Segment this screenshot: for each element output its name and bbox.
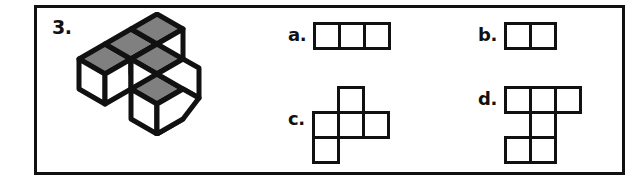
option-c-label: c. (288, 110, 305, 128)
net-cell (504, 86, 532, 114)
net-cell (529, 22, 557, 50)
net-cell (504, 22, 532, 50)
question-card: 3. (0, 0, 642, 187)
option-d-label: d. (478, 90, 497, 108)
option-b-net (504, 22, 557, 50)
net-cell (313, 22, 341, 50)
option-b-label: b. (478, 26, 497, 44)
net-cell (337, 111, 365, 139)
net-cell (312, 136, 340, 164)
net-cell (312, 111, 340, 139)
option-a-net (313, 22, 391, 50)
net-cell (529, 136, 557, 164)
option-b[interactable]: b. (478, 22, 557, 50)
option-d[interactable]: d. (478, 86, 582, 164)
net-cell (363, 22, 391, 50)
option-c[interactable]: c. (288, 86, 390, 164)
net-cell (337, 86, 365, 114)
net-cell (529, 111, 557, 139)
option-a[interactable]: a. (288, 22, 391, 50)
net-cell (338, 22, 366, 50)
question-number: 3. (52, 18, 71, 37)
net-cell (554, 86, 582, 114)
option-d-net (504, 86, 582, 164)
option-c-net (312, 86, 390, 164)
isometric-cube-figure (74, 12, 204, 136)
net-cell (504, 136, 532, 164)
isometric-cube-svg (74, 12, 204, 136)
net-cell (362, 111, 390, 139)
net-cell (529, 86, 557, 114)
option-a-label: a. (288, 26, 306, 44)
